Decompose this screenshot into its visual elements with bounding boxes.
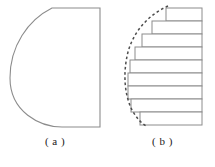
bar-2 [152, 21, 202, 34]
bar-3 [142, 34, 202, 47]
panel-a: ( a ) [0, 0, 110, 167]
bar-8 [131, 99, 202, 112]
figure-root: ( a ) ( b ) [0, 0, 215, 167]
bar-5 [130, 60, 202, 73]
figure-b-diagram [110, 0, 215, 135]
region-a-outline [10, 8, 100, 127]
bar-9 [140, 112, 202, 125]
bar-6 [128, 73, 202, 86]
caption-b: ( b ) [110, 135, 215, 147]
bar-7 [128, 86, 202, 99]
bar-4 [135, 47, 202, 60]
bar-1 [166, 8, 202, 21]
figure-a-diagram [0, 0, 110, 135]
riemann-bars [128, 8, 202, 125]
caption-a: ( a ) [0, 135, 110, 147]
panel-b: ( b ) [110, 0, 215, 167]
